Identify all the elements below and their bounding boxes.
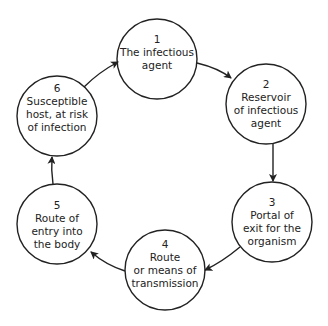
node-text-line: of infection bbox=[17, 121, 97, 134]
node-text-line: Susceptible bbox=[17, 95, 97, 108]
node-text-line: Portal of bbox=[232, 209, 312, 222]
node-text-line: Route bbox=[125, 251, 205, 264]
node-number: 1 bbox=[117, 33, 197, 46]
node-number: 2 bbox=[226, 78, 306, 91]
node-number: 4 bbox=[125, 238, 205, 251]
node-text-line: or means of bbox=[125, 264, 205, 277]
arrow-5-to-6 bbox=[52, 157, 53, 184]
node-label-6: 6 Susceptible host, at risk of infection bbox=[17, 82, 97, 134]
node-text-line: Reservoir bbox=[226, 91, 306, 104]
node-label-2: 2 Reservoir of infectious agent bbox=[226, 78, 306, 130]
node-number: 6 bbox=[17, 82, 97, 95]
node-text-line: Route of bbox=[17, 212, 97, 225]
arrow-3-to-4 bbox=[205, 247, 240, 270]
node-label-5: 5 Route of entry into the body bbox=[17, 199, 97, 251]
node-number: 5 bbox=[17, 199, 97, 212]
node-text-line: agent bbox=[117, 59, 197, 72]
arrow-1-to-2 bbox=[197, 63, 231, 78]
node-number: 3 bbox=[232, 196, 312, 209]
arrow-4-to-5 bbox=[91, 252, 125, 271]
node-text-line: organism bbox=[232, 235, 312, 248]
node-text-line: exit for the bbox=[232, 222, 312, 235]
node-text-line: of infectious bbox=[226, 104, 306, 117]
node-text-line: transmission bbox=[125, 277, 205, 290]
node-label-4: 4 Route or means of transmission bbox=[125, 238, 205, 290]
node-text-line: entry into bbox=[17, 225, 97, 238]
node-text-line: the body bbox=[17, 238, 97, 251]
node-text-line: host, at risk bbox=[17, 108, 97, 121]
node-label-3: 3 Portal of exit for the organism bbox=[232, 196, 312, 248]
node-label-1: 1 The infectious agent bbox=[117, 33, 197, 72]
node-text-line: agent bbox=[226, 117, 306, 130]
node-text-line: The infectious bbox=[117, 46, 197, 59]
